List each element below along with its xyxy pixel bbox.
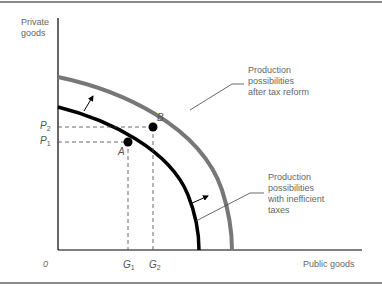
annotation-line: after tax reform — [248, 87, 309, 98]
p1-sub: 1 — [47, 140, 51, 147]
shift-arrow-upper — [84, 96, 93, 111]
p2-base: P — [40, 120, 47, 131]
ppf-diagram — [0, 0, 382, 286]
shift-arrow-lower — [190, 196, 208, 204]
annotation-line: possibilities — [268, 183, 324, 194]
p1-label: P1 — [40, 135, 51, 149]
p2-label: P2 — [40, 120, 51, 134]
annotation-line: possibilities — [248, 76, 309, 87]
point-a-label: A — [118, 146, 125, 157]
y-axis-label-line2: goods — [21, 28, 49, 39]
annotation-line: with inefficient — [268, 194, 324, 205]
g2-base: G — [149, 259, 157, 270]
annotation-line: Production — [268, 172, 324, 183]
g1-base: G — [123, 259, 131, 270]
origin-label: 0 — [43, 259, 48, 270]
inefficient-taxes-annotation: Production possibilities with inefficien… — [268, 172, 324, 216]
g2-sub: 2 — [157, 264, 161, 271]
annotation-line: taxes — [268, 205, 324, 216]
p1-base: P — [40, 135, 47, 146]
point-b-label: B — [157, 112, 164, 123]
g1-label: G1 — [123, 259, 135, 273]
y-axis-label-line1: Private — [21, 17, 49, 28]
g2-label: G2 — [149, 259, 161, 273]
ppf-after-tax-reform-curve — [58, 77, 232, 250]
leader-after-tax-reform — [190, 84, 244, 110]
point-b-marker — [149, 123, 158, 132]
x-axis-label: Public goods — [303, 259, 355, 270]
y-axis-label: Private goods — [21, 17, 49, 39]
after-tax-reform-annotation: Production possibilities after tax refor… — [248, 65, 309, 98]
g1-sub: 1 — [131, 264, 135, 271]
annotation-line: Production — [248, 65, 309, 76]
p2-sub: 2 — [47, 125, 51, 132]
